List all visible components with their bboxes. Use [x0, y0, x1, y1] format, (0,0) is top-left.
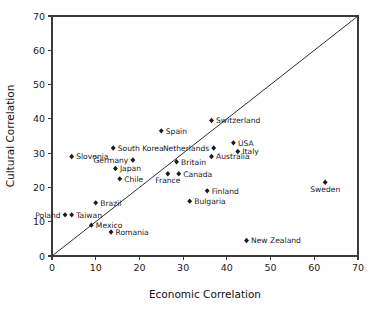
point-marker-netherlands: [211, 145, 216, 150]
point-marker-new-zealand: [244, 238, 249, 243]
point-label-finland: Finland: [212, 187, 239, 196]
point-label-switzerland: Switzerland: [216, 116, 260, 125]
x-tick-label: 0: [49, 262, 55, 273]
x-tick-label: 60: [308, 262, 320, 273]
data-point: Brazil: [93, 199, 121, 208]
point-marker-south-korea: [111, 145, 116, 150]
data-point: Japan: [113, 164, 141, 173]
point-marker-chile: [117, 176, 122, 181]
point-marker-usa: [231, 140, 236, 145]
y-tick-label: 70: [33, 11, 45, 22]
y-tick-label: 0: [39, 251, 45, 262]
chart-canvas: 010203040506070010203040506070 PolandTai…: [0, 0, 373, 312]
data-point: Spain: [159, 127, 187, 136]
y-tick-label: 20: [33, 182, 45, 193]
point-label-brazil: Brazil: [100, 199, 121, 208]
x-tick-label: 70: [352, 262, 364, 273]
point-label-taiwan: Taiwan: [75, 211, 102, 220]
point-label-canada: Canada: [183, 170, 212, 179]
y-tick-label: 50: [33, 79, 45, 90]
data-point: Chile: [117, 175, 143, 184]
point-marker-slovenia: [69, 154, 74, 159]
data-point: Poland: [35, 211, 67, 220]
point-marker-germany: [130, 157, 135, 162]
point-label-romania: Romania: [116, 228, 149, 237]
point-label-new-zealand: New Zealand: [251, 236, 301, 245]
x-tick-label: 20: [133, 262, 145, 273]
point-marker-poland: [63, 212, 68, 217]
data-point: Taiwan: [69, 211, 102, 220]
data-point: Britain: [174, 158, 206, 167]
scatter-chart: 010203040506070010203040506070 PolandTai…: [0, 0, 373, 312]
data-points: PolandTaiwanSloveniaMexicoBrazilRomaniaS…: [35, 116, 340, 245]
y-tick-label: 40: [33, 113, 45, 124]
point-marker-spain: [159, 128, 164, 133]
point-label-japan: Japan: [119, 164, 141, 173]
point-label-bulgaria: Bulgaria: [194, 197, 226, 206]
point-marker-finland: [205, 188, 210, 193]
x-tick-label: 50: [265, 262, 277, 273]
data-point: Netherlands: [163, 144, 216, 153]
point-label-italy: Italy: [242, 147, 259, 156]
point-marker-brazil: [93, 200, 98, 205]
data-point: Finland: [205, 187, 239, 196]
y-tick-label: 60: [33, 45, 45, 56]
data-point: Sweden: [310, 180, 340, 194]
data-point: Bulgaria: [187, 197, 225, 206]
x-tick-label: 10: [90, 262, 102, 273]
x-tick-label: 40: [221, 262, 233, 273]
data-point: Romania: [109, 228, 149, 237]
data-point: South Korea: [111, 144, 164, 153]
point-marker-taiwan: [69, 212, 74, 217]
x-axis-title: Economic Correlation: [149, 288, 261, 300]
point-label-britain: Britain: [181, 158, 206, 167]
point-marker-australia: [209, 154, 214, 159]
point-label-south-korea: South Korea: [118, 144, 164, 153]
y-tick-label: 30: [33, 148, 45, 159]
point-label-netherlands: Netherlands: [163, 144, 209, 153]
point-label-france: France: [155, 176, 181, 185]
point-marker-romania: [109, 229, 114, 234]
data-point: Canada: [176, 170, 212, 179]
y-axis-title: Cultural Correlation: [4, 85, 16, 188]
x-tick-label: 30: [177, 262, 189, 273]
point-marker-bulgaria: [187, 198, 192, 203]
data-point: New Zealand: [244, 236, 301, 245]
point-label-chile: Chile: [124, 175, 143, 184]
point-marker-switzerland: [209, 118, 214, 123]
point-marker-japan: [113, 166, 118, 171]
data-point: Switzerland: [209, 116, 260, 125]
point-label-poland: Poland: [35, 211, 61, 220]
point-label-spain: Spain: [166, 127, 187, 136]
point-label-sweden: Sweden: [310, 185, 340, 194]
